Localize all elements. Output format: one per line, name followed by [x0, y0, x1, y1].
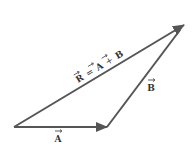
svg-text:A: A: [54, 134, 63, 144]
svg-text:R = A +: R = A + B: [74, 48, 126, 84]
vector-r-arrow: [14, 25, 184, 127]
svg-text:B: B: [147, 83, 155, 93]
label-a: A: [54, 130, 63, 145]
vector-diagram: A B R = A + B: [0, 0, 194, 148]
vector-b-line: [107, 30, 180, 127]
label-b: B: [147, 79, 155, 94]
